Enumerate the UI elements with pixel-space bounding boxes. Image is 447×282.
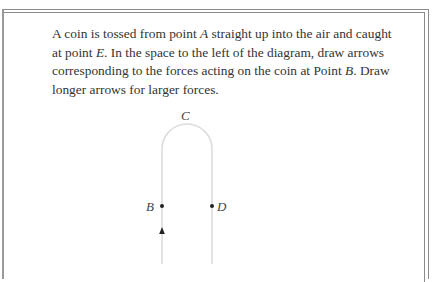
point-b-dot [160,204,164,208]
point-d-dot [210,204,214,208]
trajectory-path [162,124,212,264]
label-d: D [216,199,227,214]
up-arrow-icon [159,227,165,234]
label-c: C [181,108,190,123]
label-b: B [146,199,154,214]
